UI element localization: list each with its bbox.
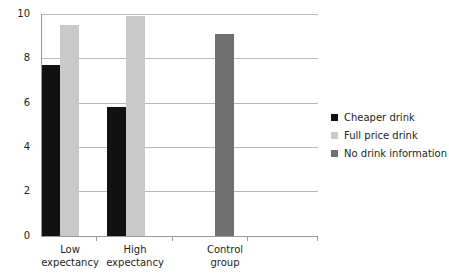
legend-label-no-drink-information: No drink information: [344, 148, 447, 159]
category-label-line-1: High: [85, 243, 185, 256]
bar-control-group-no-drink-information: [215, 34, 234, 236]
y-axis-tick-label-2: 2: [8, 186, 30, 196]
legend-item-no-drink-information: No drink information: [331, 144, 447, 162]
x-axis-line: [41, 236, 318, 237]
x-axis-tick-3: [247, 237, 248, 241]
x-axis-tick-1: [96, 237, 97, 241]
x-axis-tick-2: [172, 237, 173, 241]
bar-high-expectancy-full-price-drink: [126, 16, 145, 236]
category-label-line-2: expectancy: [85, 256, 185, 269]
bar-high-expectancy-cheaper-drink: [107, 107, 126, 236]
legend-swatch-icon-no-drink-information: [331, 150, 338, 157]
legend-swatch-icon-full-price-drink: [331, 132, 338, 139]
legend-item-cheaper-drink: Cheaper drink: [331, 108, 447, 126]
bar-low-expectancy-full-price-drink: [60, 25, 79, 236]
bar-low-expectancy-cheaper-drink: [41, 65, 60, 236]
gridline-4: [41, 147, 318, 148]
gridline-8: [41, 58, 318, 59]
legend-swatch-icon-cheaper-drink: [331, 114, 338, 121]
plot-area: [41, 14, 318, 236]
x-axis-tick-4: [317, 237, 318, 241]
x-axis-category-label-control-group: Control group: [175, 243, 275, 269]
legend-label-full-price-drink: Full price drink: [344, 130, 418, 141]
gridline-10: [41, 14, 318, 15]
gridline-2: [41, 191, 318, 192]
y-axis-tick-label-4: 4: [8, 142, 30, 152]
bar-chart: 10 8 6 4 2 0 Low expectancy High expecta…: [0, 0, 449, 274]
chart-legend: Cheaper drink Full price drink No drink …: [331, 108, 447, 162]
category-label-line-2: group: [175, 256, 275, 269]
x-axis-category-label-high-expectancy: High expectancy: [85, 243, 185, 269]
y-axis-tick-label-0: 0: [8, 231, 30, 241]
y-axis-tick-label-8: 8: [8, 53, 30, 63]
gridline-6: [41, 103, 318, 104]
y-axis-tick-label-10: 10: [8, 9, 30, 19]
legend-item-full-price-drink: Full price drink: [331, 126, 447, 144]
y-axis-line: [41, 14, 42, 236]
legend-label-cheaper-drink: Cheaper drink: [344, 112, 415, 123]
category-label-line-1: Control: [175, 243, 275, 256]
y-axis-tick-label-6: 6: [8, 98, 30, 108]
